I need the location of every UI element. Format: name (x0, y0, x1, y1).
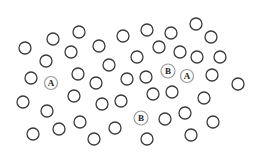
circle (88, 133, 100, 145)
circle (166, 86, 178, 98)
circle (19, 42, 31, 54)
circle (232, 78, 244, 90)
circle (174, 46, 186, 58)
circle (141, 24, 153, 36)
labeled-circle-a: A (45, 77, 58, 90)
circle-label: A (48, 78, 55, 88)
labeled-circle-a: A (181, 70, 194, 83)
circle (41, 105, 53, 117)
circle (72, 68, 84, 80)
circle (190, 18, 202, 30)
circle (27, 128, 39, 140)
circle (207, 116, 219, 128)
circle (165, 27, 177, 39)
circle (109, 122, 121, 134)
circle (90, 77, 102, 89)
circle (198, 92, 210, 104)
circle-label: B (165, 66, 171, 76)
circle (103, 59, 115, 71)
circle (68, 90, 80, 102)
circle (73, 26, 85, 38)
diagram-svg: ABAB (0, 0, 256, 158)
circle (214, 51, 226, 63)
labeled-circle-b: B (134, 111, 148, 125)
circle (205, 31, 217, 43)
circle-label: B (138, 113, 144, 123)
circle (179, 107, 191, 119)
circle (25, 72, 37, 84)
circle (147, 88, 159, 100)
circle (121, 73, 133, 85)
circle (206, 69, 218, 81)
circle (191, 51, 203, 63)
circle (40, 55, 52, 67)
circle (131, 51, 143, 63)
circle (117, 30, 129, 42)
circle-label: A (184, 71, 191, 81)
circle (153, 41, 165, 53)
circle (17, 96, 29, 108)
circle (141, 133, 153, 145)
circle (74, 116, 86, 128)
circle (185, 129, 197, 141)
circle (93, 40, 105, 52)
circle (65, 46, 77, 58)
circle (96, 98, 108, 110)
circle-diagram: ABAB (0, 0, 256, 158)
circle (159, 113, 171, 125)
circle (115, 95, 127, 107)
labeled-circle-b: B (161, 64, 175, 78)
circle (140, 71, 152, 83)
circle (47, 33, 59, 45)
circle (53, 123, 65, 135)
